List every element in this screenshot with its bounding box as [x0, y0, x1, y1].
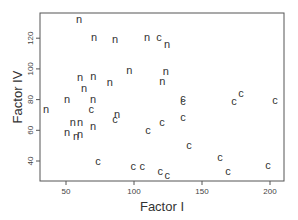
point-c: c — [265, 159, 271, 171]
point-c: c — [180, 111, 186, 123]
point-c: c — [217, 151, 223, 163]
x-tick-label: 150 — [195, 187, 209, 196]
point-n: n — [107, 76, 113, 88]
point-n: n — [126, 64, 132, 76]
point-n: n — [76, 13, 82, 25]
point-c: c — [157, 165, 163, 177]
point-n: n — [77, 128, 83, 140]
point-n: n — [112, 33, 118, 45]
scatter-chart: 50100150200 406080100120 Factor I Factor… — [0, 0, 298, 220]
point-c: c — [139, 160, 145, 172]
point-c: c — [165, 169, 171, 181]
point-c: c — [130, 160, 136, 172]
point-c: c — [112, 113, 118, 125]
point-c: c — [145, 124, 151, 136]
y-axis-title: Factor IV — [10, 70, 25, 123]
point-n: n — [64, 93, 70, 105]
point-n: n — [70, 116, 76, 128]
x-tick-label: 200 — [263, 187, 277, 196]
point-n: n — [163, 65, 169, 77]
point-c: c — [88, 103, 94, 115]
point-n: n — [164, 38, 170, 50]
point-n: n — [90, 70, 96, 82]
y-tick-label: 100 — [26, 62, 35, 76]
x-axis: 50100150200 — [62, 181, 278, 196]
point-c: c — [159, 116, 165, 128]
y-tick-label: 120 — [26, 31, 35, 45]
plot-frame — [40, 13, 284, 181]
point-c: c — [180, 92, 186, 104]
y-tick-label: 40 — [26, 156, 35, 165]
point-n: n — [90, 120, 96, 132]
point-n: n — [91, 31, 97, 43]
y-tick-label: 60 — [26, 125, 35, 134]
point-c: c — [272, 94, 278, 106]
point-n: n — [81, 82, 87, 94]
y-axis: 406080100120 — [26, 31, 40, 165]
point-c: c — [156, 31, 162, 43]
x-tick-label: 50 — [62, 187, 71, 196]
point-c: c — [95, 155, 101, 167]
point-c: c — [225, 165, 231, 177]
point-n: n — [144, 31, 150, 43]
point-n: n — [43, 103, 49, 115]
point-c: c — [238, 87, 244, 99]
point-c: c — [231, 95, 237, 107]
data-points: nnnnnnnnnnnnnnnnnnnnnncccccccccccccccccc… — [43, 13, 278, 181]
x-axis-title: Factor I — [140, 199, 184, 214]
y-tick-label: 80 — [26, 95, 35, 104]
point-c: c — [186, 139, 192, 151]
x-tick-label: 100 — [127, 187, 141, 196]
point-n: n — [64, 126, 70, 138]
